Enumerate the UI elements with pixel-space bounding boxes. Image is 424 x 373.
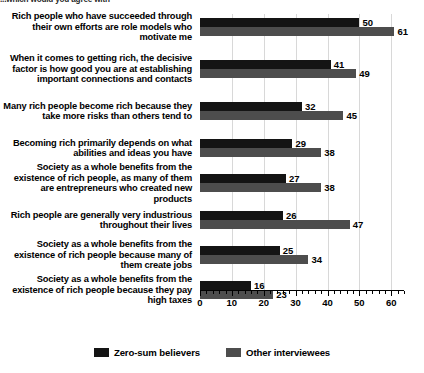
tick-major bbox=[296, 291, 297, 296]
bar-group: 2647 bbox=[200, 211, 404, 229]
tick-minor bbox=[340, 291, 341, 294]
tick-minor bbox=[315, 291, 316, 294]
bar-value-label: 41 bbox=[334, 60, 345, 69]
bar-value-label: 47 bbox=[353, 220, 364, 229]
tick-label: 60 bbox=[386, 297, 397, 308]
legend-label: Zero-sum believers bbox=[114, 347, 200, 358]
tick-minor bbox=[347, 291, 348, 294]
tick-label: 50 bbox=[354, 297, 365, 308]
tick-minor bbox=[379, 291, 380, 294]
category-label: Becoming rich primarily depends on what … bbox=[0, 138, 192, 159]
category-label: Society as a whole benefits from the exi… bbox=[0, 239, 192, 271]
tick-label: 30 bbox=[290, 297, 301, 308]
bar-zs bbox=[200, 18, 359, 27]
bar-zs bbox=[200, 102, 302, 111]
legend-label: Other interviewees bbox=[246, 347, 330, 358]
bar-oi bbox=[200, 183, 321, 192]
bar-zs bbox=[200, 281, 251, 290]
bar-group: 4149 bbox=[200, 60, 404, 78]
chart-legend: Zero-sum believersOther interviewees bbox=[0, 347, 424, 358]
tick-major bbox=[264, 291, 265, 296]
bar-value-label: 16 bbox=[254, 281, 265, 290]
bar-value-label: 34 bbox=[311, 255, 322, 264]
bar-value-label: 25 bbox=[283, 246, 294, 255]
bar-oi bbox=[200, 69, 356, 78]
tick-major bbox=[232, 291, 233, 296]
bar-value-label: 38 bbox=[324, 148, 335, 157]
category-label: Rich people are generally very industrio… bbox=[0, 210, 192, 231]
tick-label: 0 bbox=[197, 297, 202, 308]
tick-minor bbox=[404, 291, 405, 294]
bar-zs bbox=[200, 60, 331, 69]
bar-zs bbox=[200, 139, 292, 148]
bar-value-label: 49 bbox=[359, 69, 370, 78]
category-label: Society as a whole benefits from the exi… bbox=[0, 274, 192, 306]
bar-group: 2938 bbox=[200, 139, 404, 157]
tick-minor bbox=[219, 291, 220, 294]
tick-major bbox=[359, 291, 360, 296]
tick-label: 10 bbox=[227, 297, 238, 308]
category-label: When it comes to getting rich, the decis… bbox=[0, 53, 192, 85]
tick-minor bbox=[334, 291, 335, 294]
tick-minor bbox=[366, 291, 367, 294]
tick-minor bbox=[321, 291, 322, 294]
bar-value-label: 61 bbox=[397, 27, 408, 36]
tick-major bbox=[391, 291, 392, 296]
x-axis-tick-labels: 0102030405060 bbox=[200, 297, 420, 311]
bar-value-label: 27 bbox=[289, 174, 300, 183]
tick-label: 20 bbox=[258, 297, 269, 308]
tick-minor bbox=[353, 291, 354, 294]
bar-zs bbox=[200, 174, 286, 183]
legend-swatch bbox=[226, 348, 241, 357]
tick-minor bbox=[213, 291, 214, 294]
tick-minor bbox=[257, 291, 258, 294]
tick-minor bbox=[226, 291, 227, 294]
bar-value-label: 45 bbox=[346, 111, 357, 120]
tick-minor bbox=[302, 291, 303, 294]
legend-swatch bbox=[94, 348, 109, 357]
tick-major bbox=[200, 291, 201, 296]
tick-major bbox=[328, 291, 329, 296]
legend-item: Other interviewees bbox=[226, 347, 330, 358]
tick-minor bbox=[308, 291, 309, 294]
bar-value-label: 32 bbox=[305, 102, 316, 111]
tick-minor bbox=[251, 291, 252, 294]
legend-item: Zero-sum believers bbox=[94, 347, 200, 358]
bar-value-label: 26 bbox=[286, 211, 297, 220]
tick-minor bbox=[289, 291, 290, 294]
bar-oi bbox=[200, 148, 321, 157]
bar-value-label: 38 bbox=[324, 183, 335, 192]
bar-group: 2738 bbox=[200, 174, 404, 192]
bar-oi bbox=[200, 111, 343, 120]
bar-group: 3245 bbox=[200, 102, 404, 120]
category-label: Many rich people become rich because the… bbox=[0, 101, 192, 122]
tick-minor bbox=[385, 291, 386, 294]
tick-minor bbox=[398, 291, 399, 294]
bar-value-label: 50 bbox=[362, 18, 373, 27]
bar-oi bbox=[200, 27, 394, 36]
bar-zs bbox=[200, 211, 283, 220]
tick-label: 40 bbox=[322, 297, 333, 308]
category-label: Rich people who have succeeded through t… bbox=[0, 11, 192, 43]
tick-minor bbox=[245, 291, 246, 294]
bar-value-label: 29 bbox=[295, 139, 306, 148]
tick-minor bbox=[372, 291, 373, 294]
bar-oi bbox=[200, 220, 350, 229]
tick-minor bbox=[283, 291, 284, 294]
bar-group: 2534 bbox=[200, 246, 404, 264]
tick-minor bbox=[277, 291, 278, 294]
bar-group: 5061 bbox=[200, 18, 404, 36]
bar-chart: ...which would you agree with Rich peopl… bbox=[0, 0, 424, 373]
bar-zs bbox=[200, 246, 280, 255]
bar-oi bbox=[200, 255, 308, 264]
category-labels: Rich people who have succeeded through t… bbox=[0, 0, 196, 300]
plot-area: 50614149324529382738264725341623 bbox=[200, 14, 404, 290]
tick-minor bbox=[206, 291, 207, 294]
category-label: Society as a whole benefits from the exi… bbox=[0, 162, 192, 204]
tick-minor bbox=[270, 291, 271, 294]
tick-minor bbox=[238, 291, 239, 294]
